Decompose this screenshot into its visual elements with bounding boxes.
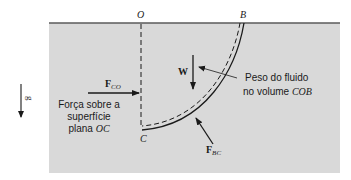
force-note-line3-var: OC	[96, 123, 110, 134]
label-point-c: C	[140, 133, 147, 144]
label-weight: W	[178, 66, 188, 77]
force-note-line3-prefix: plana	[68, 123, 95, 134]
weight-note-line2-prefix: no volume	[243, 86, 292, 97]
weight-note-line1: Peso do fluido	[245, 72, 309, 83]
force-note-line3: plana OC	[68, 123, 109, 134]
label-point-o: O	[137, 9, 144, 20]
fluid-region	[49, 23, 340, 173]
weight-note-line2-var: COB	[292, 86, 312, 97]
label-force-bc-sub: BC	[212, 149, 221, 157]
fluid-free-body-diagram: O B C W Peso do fluido no volume COB FCO…	[0, 0, 351, 180]
force-note-line1: Força sobre a	[58, 99, 120, 110]
weight-note-line2: no volume COB	[243, 86, 312, 97]
force-note-line2: superfície	[67, 111, 111, 122]
label-point-b: B	[240, 9, 246, 20]
label-force-co-sub: CO	[111, 83, 121, 91]
label-gravity: g	[25, 96, 35, 101]
